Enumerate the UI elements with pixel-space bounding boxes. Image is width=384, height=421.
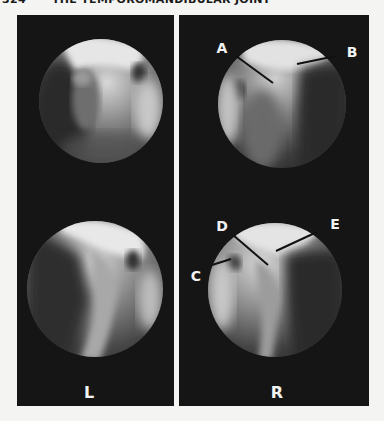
callout-label-e: E	[330, 216, 340, 232]
side-label-right: R	[271, 383, 283, 402]
callout-label-c: C	[191, 268, 201, 284]
figure-arthrogram-views: L A B	[0, 0, 384, 421]
left-panel: L	[17, 15, 174, 406]
callout-label-b: B	[347, 44, 358, 60]
callout-label-d: D	[216, 218, 228, 234]
callout-label-a: A	[217, 40, 228, 56]
side-label-left: L	[84, 383, 94, 402]
right-panel: A B C D E R	[179, 15, 369, 406]
